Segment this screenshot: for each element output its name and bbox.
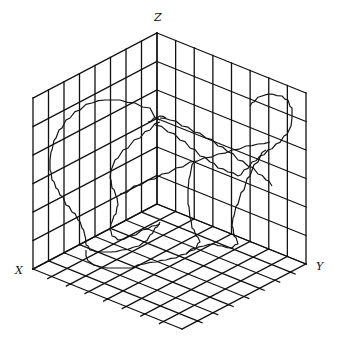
y-axis-label: Y — [316, 261, 323, 272]
floor-tick — [66, 284, 70, 286]
floor-tick — [275, 280, 280, 282]
floor-tick — [229, 305, 234, 307]
x-axis-label: X — [15, 265, 23, 276]
z-axis-label: Z — [154, 12, 162, 23]
floor-line-y — [89, 227, 213, 292]
floor-tick — [160, 322, 164, 324]
floor-tick — [291, 272, 296, 274]
floor-line-y — [145, 249, 269, 314]
3d-plot — [0, 0, 343, 345]
floor-tick — [122, 307, 126, 309]
floor-tick — [213, 313, 218, 315]
floor-tick — [141, 314, 145, 316]
plot-grid — [33, 33, 306, 329]
floor-line-y — [163, 257, 287, 322]
floor-tick — [85, 292, 89, 294]
floor-tick — [260, 288, 265, 290]
curve-diagonal-upper — [160, 118, 272, 186]
floor-tick — [48, 277, 52, 279]
floor-tick — [244, 297, 249, 299]
floor-line-y — [70, 219, 194, 284]
floor-tick — [198, 321, 203, 323]
floor-tick — [104, 299, 108, 301]
